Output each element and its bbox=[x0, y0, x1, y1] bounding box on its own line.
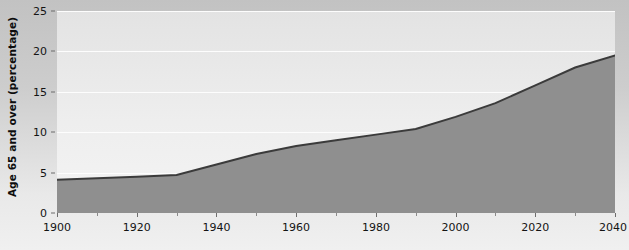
x-tick-label: 1900 bbox=[43, 222, 71, 233]
chart-figure: Age 65 and over (percentage) 25 20 15 10… bbox=[0, 0, 629, 250]
y-tick-mark bbox=[51, 172, 55, 173]
x-tick-mark-minor bbox=[495, 213, 496, 216]
y-tick-label: 25 bbox=[33, 6, 47, 17]
y-tick-mark bbox=[51, 91, 55, 92]
x-tick-mark bbox=[137, 213, 138, 217]
x-tick-label: 1920 bbox=[123, 222, 151, 233]
x-tick-mark-minor bbox=[97, 213, 98, 216]
x-tick-label: 1940 bbox=[202, 222, 230, 233]
x-tick-mark bbox=[615, 213, 616, 217]
x-tick-label: 2020 bbox=[521, 222, 549, 233]
y-tick-label: 15 bbox=[33, 86, 47, 97]
x-tick-label: 1960 bbox=[282, 222, 310, 233]
x-tick-label: 2040 bbox=[599, 222, 627, 233]
area-series bbox=[57, 11, 615, 213]
y-axis-title: Age 65 and over (percentage) bbox=[6, 16, 18, 196]
x-tick-mark-minor bbox=[256, 213, 257, 216]
plot-area bbox=[57, 11, 615, 213]
y-tick-label: 10 bbox=[33, 127, 47, 138]
x-tick-mark bbox=[216, 213, 217, 217]
x-tick-mark bbox=[57, 213, 58, 217]
x-tick-mark bbox=[376, 213, 377, 217]
x-tick-mark-minor bbox=[416, 213, 417, 216]
x-tick-label: 1980 bbox=[362, 222, 390, 233]
x-tick-mark bbox=[535, 213, 536, 217]
x-tick-mark-minor bbox=[336, 213, 337, 216]
x-tick-mark-minor bbox=[575, 213, 576, 216]
x-axis: 1900 1920 1940 1960 1980 2000 2020 2040 bbox=[0, 213, 629, 250]
y-axis-title-wrap: Age 65 and over (percentage) bbox=[2, 0, 22, 213]
x-tick-mark bbox=[456, 213, 457, 217]
y-tick-label: 20 bbox=[33, 46, 47, 57]
x-tick-mark-minor bbox=[177, 213, 178, 216]
y-tick-label: 5 bbox=[40, 167, 47, 178]
y-tick-mark bbox=[51, 51, 55, 52]
area-fill bbox=[57, 55, 615, 213]
x-tick-mark bbox=[296, 213, 297, 217]
y-tick-mark bbox=[51, 11, 55, 12]
y-tick-mark bbox=[51, 132, 55, 133]
x-tick-label: 2000 bbox=[442, 222, 470, 233]
